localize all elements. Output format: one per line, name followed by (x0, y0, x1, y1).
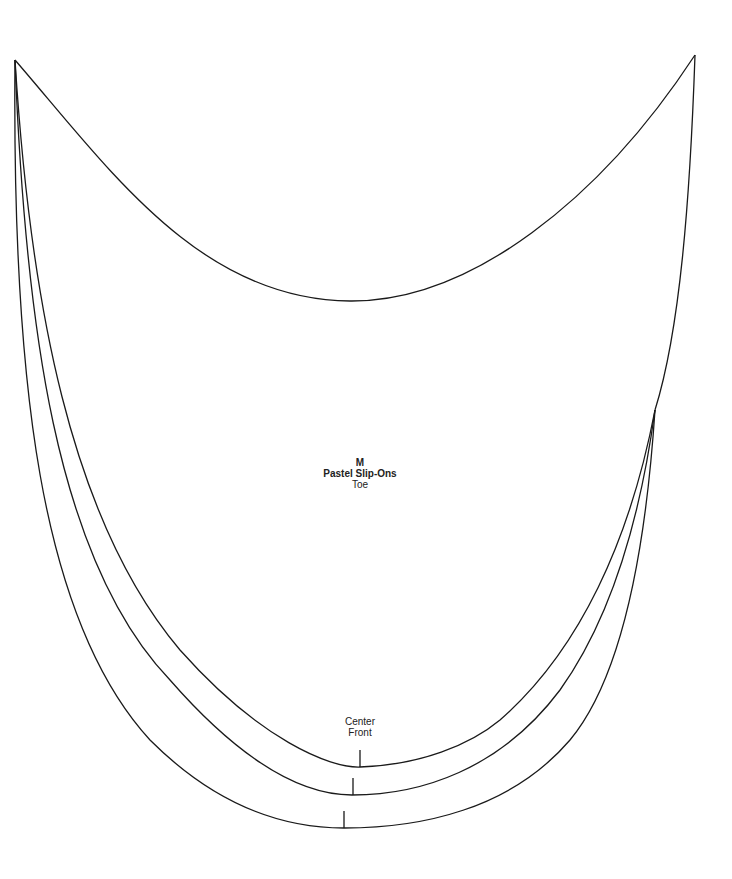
middle-curve (15, 60, 655, 795)
pattern-label: M Pastel Slip-Ons Toe (280, 457, 440, 490)
outer-curve (15, 60, 655, 828)
inner-curve (15, 60, 655, 767)
center-front-label: Center Front (320, 716, 400, 738)
top-edge-curve (15, 55, 695, 301)
size-label: M (280, 457, 440, 468)
pattern-outline (0, 0, 732, 879)
center-front-line1: Center (320, 716, 400, 727)
center-front-line2: Front (320, 727, 400, 738)
piece-name: Toe (280, 479, 440, 490)
right-edge-line (655, 55, 695, 410)
pattern-name: Pastel Slip-Ons (280, 468, 440, 479)
